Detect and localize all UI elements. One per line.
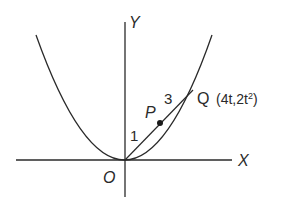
point-q-coordinates: (4t,2t2) [216,91,258,107]
point-q-label: Q [197,90,209,107]
origin-label: O [103,169,115,186]
point-p-marker [157,120,163,126]
parabola-diagram: Y X O P 1 3 Q (4t,2t2) [0,0,285,200]
ratio-label-1: 1 [130,127,138,144]
q-coord-main: (4t,2t [216,91,248,107]
ratio-label-3: 3 [164,90,172,107]
q-coord-close: ) [253,91,258,107]
x-axis-label: X [237,152,250,169]
y-axis-label: Y [129,14,141,31]
point-p-label: P [145,104,156,121]
